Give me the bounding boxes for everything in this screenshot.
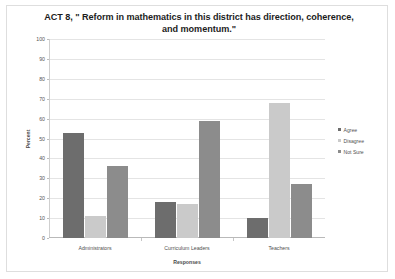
bar-not-sure[interactable] [291, 184, 312, 238]
y-axis-tick-label: 20 [39, 195, 45, 201]
legend-item-disagree[interactable]: Disagree [338, 135, 386, 146]
bar-not-sure[interactable] [107, 166, 128, 238]
legend-swatch-icon [338, 150, 341, 153]
x-axis-separator [141, 238, 142, 241]
legend-item-agree[interactable]: Agree [338, 124, 386, 135]
chart-legend: AgreeDisagreeNot Sure [338, 124, 386, 157]
bar-not-sure[interactable] [199, 121, 220, 238]
y-axis-tick-label: 100 [36, 36, 45, 42]
plot-area: 1009080706050403020100 AdministratorsCur… [49, 39, 325, 238]
bar-agree[interactable] [247, 218, 268, 238]
y-axis-tick-label: 10 [39, 215, 45, 221]
chart-card: ACT 8, " Reform in mathematics in this d… [6, 5, 388, 272]
bar-group: Teachers [233, 39, 325, 238]
chart-title: ACT 8, " Reform in mathematics in this d… [37, 12, 361, 35]
y-axis-title: Percent [25, 129, 31, 148]
x-axis-title: Responses [49, 259, 325, 265]
y-axis-tick-label: 70 [39, 96, 45, 102]
x-axis-tick-label: Teachers [268, 245, 289, 251]
y-axis-tick-label: 50 [39, 136, 45, 142]
y-axis-tick-label: 90 [39, 56, 45, 62]
bar-agree[interactable] [155, 202, 176, 238]
legend-item-label: Disagree [344, 138, 364, 144]
legend-swatch-icon [338, 128, 341, 131]
x-axis-tick-label: Administrators [78, 245, 111, 251]
chart-title-line-1: ACT 8, " Reform in mathematics in this d… [37, 12, 361, 24]
y-axis-tick-label: 80 [39, 76, 45, 82]
bar-disagree[interactable] [85, 216, 106, 238]
legend-item-not-sure[interactable]: Not Sure [338, 146, 386, 157]
bar-group: Administrators [49, 39, 141, 238]
y-axis-tick-label: 30 [39, 175, 45, 181]
y-axis-tick-label: 60 [39, 116, 45, 122]
bar-disagree[interactable] [177, 204, 198, 238]
y-axis-tick-label: 40 [39, 155, 45, 161]
y-axis-tick-label: 0 [42, 235, 45, 241]
legend-item-label: Agree [344, 127, 358, 133]
x-axis-separator [233, 238, 234, 241]
bar-agree[interactable] [63, 133, 84, 238]
x-axis-tick-label: Curriculum Leaders [164, 245, 209, 251]
legend-swatch-icon [338, 139, 341, 142]
bar-group: Curriculum Leaders [141, 39, 233, 238]
y-axis-tick-mark [47, 238, 50, 239]
legend-item-label: Not Sure [344, 149, 364, 155]
chart-title-line-2: and momentum." [37, 24, 361, 36]
bar-disagree[interactable] [269, 103, 290, 238]
